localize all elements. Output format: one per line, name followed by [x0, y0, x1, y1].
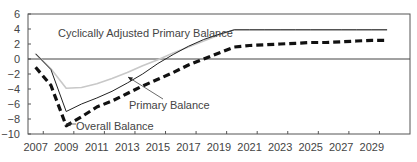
annotations-layer: Cyclically Adjusted Primary BalancePrima…: [58, 27, 233, 132]
x-tick-label: 2013: [115, 141, 139, 153]
x-tick-label: 2015: [146, 141, 170, 153]
series-layer: [36, 30, 388, 126]
x-tick-label: 2017: [176, 141, 200, 153]
annotation-label: Overall Balance: [76, 120, 154, 132]
annotation-label: Primary Balance: [129, 99, 210, 111]
series-line-overall-balance: [36, 40, 388, 126]
y-tick-label: −2: [7, 68, 20, 80]
x-tick-label: 2029: [360, 141, 384, 153]
x-tick-label: 2011: [85, 141, 109, 153]
x-tick-label: 2007: [23, 141, 47, 153]
x-tick-label: 2025: [298, 141, 322, 153]
x-tick-label: 2019: [207, 141, 231, 153]
fiscal-balance-line-chart: 6420−2−4−6−8−10 200720092011201320152017…: [0, 0, 417, 162]
x-tick-label: 2021: [237, 141, 261, 153]
y-tick-label: 2: [14, 38, 20, 50]
y-tick-label: −4: [7, 83, 20, 95]
y-tick-label: 6: [14, 8, 20, 20]
y-tick-label: −8: [7, 113, 20, 125]
x-tick-label: 2023: [268, 141, 292, 153]
y-tick-label: −6: [7, 98, 20, 110]
x-tick-label: 2009: [54, 141, 78, 153]
x-tick-label: 2027: [329, 141, 353, 153]
y-axis: 6420−2−4−6−8−10: [1, 8, 31, 140]
y-tick-label: 0: [14, 53, 20, 65]
annotation-label: Cyclically Adjusted Primary Balance: [58, 27, 233, 39]
y-tick-label: 4: [14, 23, 20, 35]
y-tick-label: −10: [1, 128, 20, 140]
